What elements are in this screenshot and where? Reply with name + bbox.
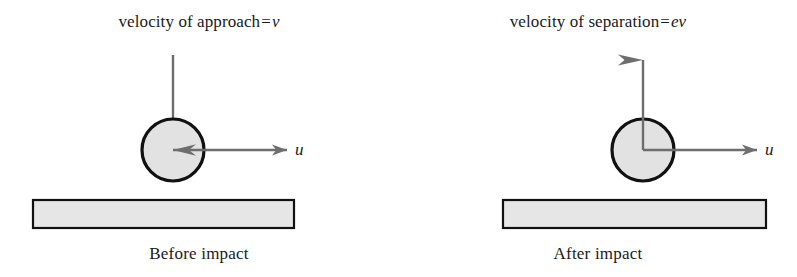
after-impact-drawing bbox=[399, 0, 797, 277]
panel-after-impact: velocity of separation=ev u After impact bbox=[399, 0, 797, 277]
restitution-figure: velocity of approach=v u Be bbox=[0, 0, 797, 277]
ground-block bbox=[33, 200, 294, 228]
before-impact-drawing bbox=[0, 0, 398, 277]
ground-block bbox=[503, 200, 766, 228]
panel-before-impact: velocity of approach=v u Be bbox=[0, 0, 398, 277]
